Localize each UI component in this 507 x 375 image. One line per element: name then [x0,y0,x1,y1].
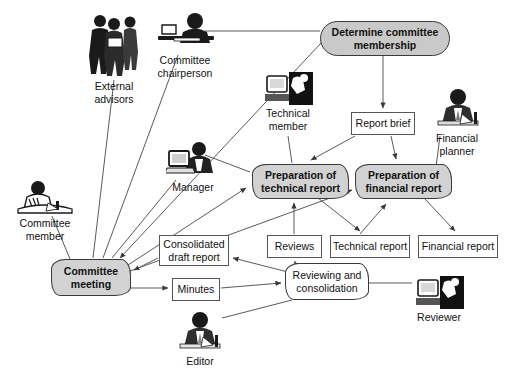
actor-editor: Editor [176,311,224,368]
actor-manager: Manager [166,141,220,194]
person-at-desk-icon [152,12,218,52]
actor-committee-member: Committee member [12,181,78,242]
edge-minutes-reviewing [221,283,281,288]
node-reviewing-and-consolidation[interactable]: Reviewing and consolidation [285,263,369,300]
person-laptop-icon [166,141,220,179]
actor-committee-chairperson: Committee chairperson [152,12,218,79]
node-financial-report[interactable]: Financial report [418,235,498,258]
node-preparation-technical-report[interactable]: Preparation of technical report [252,164,349,199]
actor-label: External advisors [82,80,146,105]
edge-techmember-preptech [288,136,292,163]
person-writing-icon [432,88,482,130]
node-preparation-financial-report[interactable]: Preparation of financial report [355,164,452,199]
edge-techreport-prepfin [360,204,386,234]
actor-external-advisors: External advisors [82,10,146,105]
edge-consolidated-meeting [134,258,158,270]
actor-label: Manager [166,181,220,194]
actor-label: Committee chairperson [152,54,218,79]
edge-prepfin-finreport [424,198,455,231]
person-desk-papers-icon [176,311,224,353]
person-computer-icon [414,276,464,309]
actor-technical-member: Technical member [263,72,313,132]
actor-label: Technical member [263,107,313,132]
node-minutes[interactable]: Minutes [172,278,220,301]
node-consolidated-draft-report[interactable]: Consolidated draft report [159,235,229,266]
node-determine-committee-membership[interactable]: Determine committee membership [320,21,450,56]
node-reviews[interactable]: Reviews [267,235,322,258]
edge-advisors-meeting [93,80,114,258]
actor-reviewer: Reviewer [414,276,464,324]
actor-label: Committee member [12,217,78,242]
edge-preptech-techreport [318,198,360,231]
edge-editor-reviewing [222,300,292,318]
actor-label: Editor [176,355,224,368]
person-computer-icon [263,72,313,105]
actor-financial-planner: Financial planner [432,88,482,157]
person-reading-icon [12,181,78,215]
three-people-icon [82,10,146,78]
node-committee-meeting[interactable]: Committee meeting [51,259,131,296]
actor-label: Financial planner [432,132,482,157]
edge-brief-preptech [311,136,355,160]
node-technical-report[interactable]: Technical report [330,235,410,258]
edge-reviewing-consolidated [233,258,288,272]
actor-label: Reviewer [414,311,464,324]
node-report-brief[interactable]: Report brief [351,112,415,135]
flowchart-canvas: Determine committee membership Report br… [0,0,507,375]
edge-brief-prepfin [391,136,396,159]
